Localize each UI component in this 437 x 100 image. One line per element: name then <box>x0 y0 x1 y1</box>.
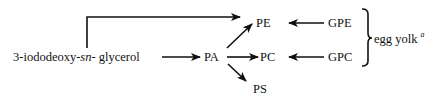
arrow-pa-to-ps <box>228 64 246 81</box>
node-pc: PC <box>260 50 275 64</box>
arrow-pa-to-pe <box>227 24 252 48</box>
pathway-diagram: 3-iododeoxy-sn- glycerol PA PE PC PS GPE… <box>0 0 437 100</box>
node-pa: PA <box>204 50 219 64</box>
arrow-glycerol-to-pe <box>87 17 240 48</box>
footnote-marker: a <box>420 30 424 39</box>
node-pe: PE <box>256 16 271 30</box>
node-gpc: GPC <box>328 50 352 64</box>
node-start-glycerol: 3-iododeoxy-sn- glycerol <box>13 50 140 64</box>
node-ps: PS <box>253 82 267 96</box>
node-gpe: GPE <box>328 16 352 30</box>
brace-egg-yolk <box>362 9 372 66</box>
egg-yolk-label: egg yolka <box>374 30 424 46</box>
